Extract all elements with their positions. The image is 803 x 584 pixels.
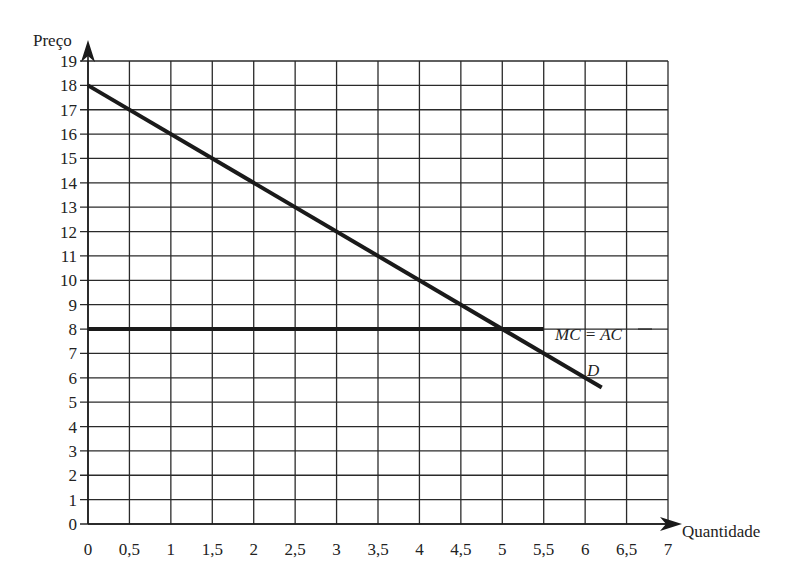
x-tick-label: 3,5 [367, 540, 388, 559]
x-tick-label: 2 [249, 540, 258, 559]
y-tick-label: 13 [60, 198, 77, 217]
y-tick-label: 19 [60, 52, 77, 71]
y-tick-label: 18 [60, 76, 77, 95]
y-tick-label: 2 [69, 466, 78, 485]
y-tick-label: 8 [69, 320, 78, 339]
y-tick-label: 0 [69, 515, 78, 534]
y-tick-label: 10 [60, 271, 77, 290]
y-axis-label: Preço [33, 31, 72, 50]
x-tick-label: 0,5 [119, 540, 140, 559]
x-tick-labels: 00,511,522,533,544,555,566,57 [84, 540, 673, 559]
y-tick-label: 6 [69, 369, 78, 388]
x-tick-label: 5 [498, 540, 507, 559]
x-tick-label: 2,5 [285, 540, 306, 559]
chart: 012345678910111213141516171819 00,511,52… [0, 0, 803, 584]
x-tick-label: 6 [581, 540, 590, 559]
y-tick-label: 14 [60, 174, 78, 193]
demand-curve [88, 85, 602, 387]
x-tick-label: 4 [415, 540, 424, 559]
x-tick-label: 3 [332, 540, 341, 559]
x-tick-label: 0 [84, 540, 93, 559]
y-tick-label: 16 [60, 125, 77, 144]
demand-label: D [586, 361, 600, 380]
y-tick-label: 7 [69, 344, 78, 363]
x-tick-label: 6,5 [616, 540, 637, 559]
y-tick-label: 9 [69, 296, 78, 315]
x-tick-label: 7 [664, 540, 673, 559]
y-tick-label: 12 [60, 223, 77, 242]
x-tick-label: 1 [167, 540, 176, 559]
y-tick-label: 5 [69, 393, 78, 412]
x-tick-label: 4,5 [450, 540, 471, 559]
y-tick-labels: 012345678910111213141516171819 [60, 52, 78, 534]
y-tick-label: 1 [69, 491, 78, 510]
x-axis-label: Quantidade [682, 522, 760, 541]
mc-ac-label: MC = AC [554, 325, 623, 344]
x-tick-label: 1,5 [202, 540, 223, 559]
y-tick-label: 4 [69, 418, 78, 437]
y-tick-label: 11 [61, 247, 77, 266]
y-tick-label: 15 [60, 149, 77, 168]
x-tick-label: 5,5 [533, 540, 554, 559]
y-tick-label: 17 [60, 101, 78, 120]
y-tick-label: 3 [69, 442, 78, 461]
